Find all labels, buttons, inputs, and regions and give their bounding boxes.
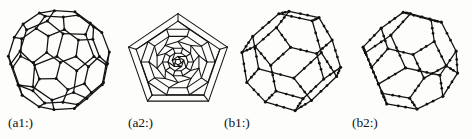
panel-b1-structure [234,0,354,139]
panel-label-a1: (a1:) [8,116,33,130]
figure-sheet: (a1:) (a2:) (b1:) (b2:) [0,0,472,139]
cage-drawing-b1 [234,0,354,139]
panel-label-b1: (b1:) [224,116,250,130]
panel-label-b2: (b2:) [352,116,378,130]
panel-label-a2: (a2:) [128,116,153,130]
